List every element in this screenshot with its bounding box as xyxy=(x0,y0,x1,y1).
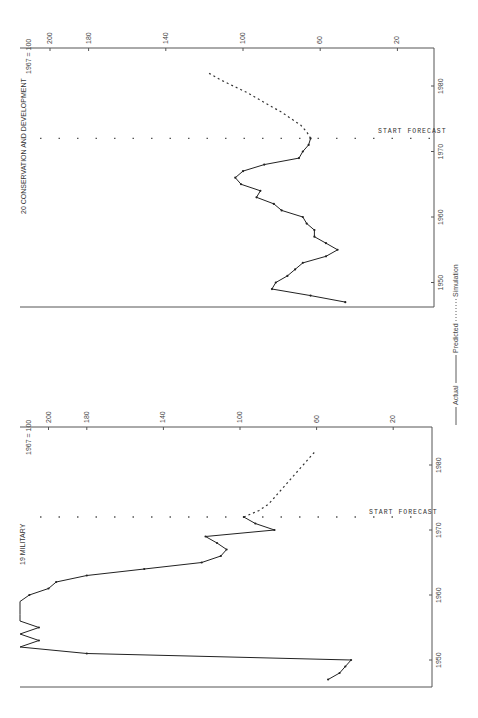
data-point xyxy=(302,262,304,264)
start-forecast-label: START FORECAST xyxy=(378,128,447,135)
year-tick-label: 1980 xyxy=(435,457,442,473)
chart-conservation-development: 20 CONSERVATION AND DEVELOPMENT 1967 = 1… xyxy=(20,32,447,307)
axis-frame xyxy=(20,427,432,687)
index-label: 1967 = 100 xyxy=(25,420,32,455)
data-point xyxy=(86,574,88,576)
series xyxy=(20,452,352,681)
year-tick-label: 1960 xyxy=(435,587,442,603)
data-point xyxy=(294,268,296,270)
axes: 20018014010060201950196019701980 xyxy=(20,32,444,307)
chart-military: 19 MILITARY 1967 = 100 20018014010060201… xyxy=(19,411,442,687)
year-tick-label: 1980 xyxy=(437,78,444,94)
year-tick-label: 1970 xyxy=(435,522,442,538)
data-point xyxy=(86,652,88,654)
value-tick-label: 180 xyxy=(83,411,90,423)
data-point xyxy=(204,535,206,537)
data-point xyxy=(47,587,49,589)
legend-predicted-label: Predicted xyxy=(452,323,459,353)
data-point xyxy=(344,665,346,667)
value-tick-label: 100 xyxy=(236,411,243,423)
data-point xyxy=(263,164,265,166)
value-tick-label: 140 xyxy=(159,411,166,423)
figure-canvas: 20 CONSERVATION AND DEVELOPMENT 1967 = 1… xyxy=(0,0,478,718)
data-point xyxy=(225,548,227,550)
data-point xyxy=(28,594,30,596)
data-point xyxy=(38,626,40,628)
data-point xyxy=(325,255,327,257)
series xyxy=(208,73,346,303)
data-point xyxy=(309,295,311,297)
data-point xyxy=(302,150,304,152)
data-point xyxy=(271,288,273,290)
data-point xyxy=(240,183,242,185)
actual-line xyxy=(235,138,345,302)
data-point xyxy=(313,236,315,238)
value-tick-label: 100 xyxy=(239,32,246,44)
year-tick-label: 1960 xyxy=(437,209,444,225)
data-point xyxy=(275,281,277,283)
simulation-line xyxy=(244,452,315,517)
data-point xyxy=(254,522,256,524)
data-point xyxy=(344,301,346,303)
data-point xyxy=(338,672,340,674)
data-point xyxy=(313,229,315,231)
data-point xyxy=(350,659,352,661)
actual-line xyxy=(20,517,351,680)
value-tick-label: 140 xyxy=(162,32,169,44)
data-point xyxy=(327,678,329,680)
data-point xyxy=(38,639,40,641)
data-point xyxy=(201,561,203,563)
data-point xyxy=(216,542,218,544)
legend-simulation-label: Simulation xyxy=(452,264,459,297)
data-point xyxy=(242,170,244,172)
value-tick-label: 60 xyxy=(316,36,323,44)
value-tick-label: 60 xyxy=(313,415,320,423)
value-tick-label: 200 xyxy=(45,411,52,423)
axes: 20018014010060201950196019701980 xyxy=(20,411,442,687)
year-tick-label: 1970 xyxy=(437,144,444,160)
data-point xyxy=(286,275,288,277)
data-point xyxy=(55,581,57,583)
data-point xyxy=(234,177,236,179)
data-point xyxy=(308,144,310,146)
data-point xyxy=(306,222,308,224)
index-label: 1967 = 100 xyxy=(25,39,32,74)
data-point xyxy=(298,157,300,159)
chart-title: 19 MILITARY xyxy=(19,523,26,565)
value-tick-label: 200 xyxy=(46,32,53,44)
simulation-line xyxy=(208,73,310,138)
legend: Actual Predicted Simulation xyxy=(452,264,459,425)
data-point xyxy=(143,568,145,570)
value-tick-label: 20 xyxy=(389,415,396,423)
value-tick-label: 20 xyxy=(393,36,400,44)
data-point xyxy=(302,216,304,218)
start-forecast-label: START FORECAST xyxy=(369,509,438,516)
data-point xyxy=(273,529,275,531)
data-point xyxy=(325,242,327,244)
chart-title: 20 CONSERVATION AND DEVELOPMENT xyxy=(20,78,27,214)
data-point xyxy=(273,203,275,205)
year-tick-label: 1950 xyxy=(437,275,444,291)
year-tick-label: 1950 xyxy=(435,652,442,668)
legend-actual-label: Actual xyxy=(452,385,459,405)
data-point xyxy=(281,209,283,211)
data-point xyxy=(259,190,261,192)
axis-frame xyxy=(20,48,434,307)
data-point xyxy=(336,249,338,251)
data-point xyxy=(255,196,257,198)
data-point xyxy=(220,555,222,557)
value-tick-label: 180 xyxy=(85,32,92,44)
